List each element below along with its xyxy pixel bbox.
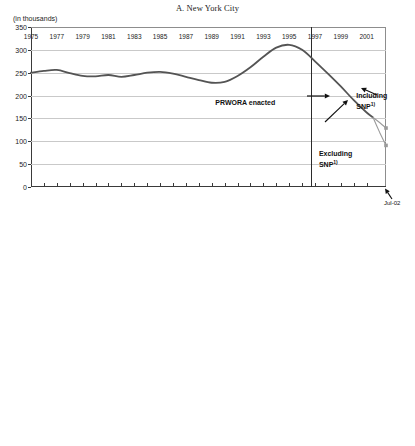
excluding-snp-arrow-icon (31, 27, 386, 187)
y-tick-label: 150 (15, 115, 27, 122)
jul-02-axis-label: Jul-02 (384, 200, 400, 206)
y-tick-label: 0 (23, 184, 27, 191)
jul-02-arrow-icon (31, 187, 386, 207)
page-footnote (0, 438, 415, 446)
chart-panel-united-states: B. The United States (in thousands) 0100… (0, 222, 415, 446)
y-tick-label: 50 (19, 161, 27, 168)
y-tick-label: 250 (15, 69, 27, 76)
panel-a-units-label: (in thousands) (13, 15, 57, 22)
y-tick-label: 300 (15, 46, 27, 53)
y-tick-label: 100 (15, 138, 27, 145)
y-tick-label: 200 (15, 92, 27, 99)
y-tick-label: 350 (15, 24, 27, 31)
panel-a-plot-area: 050100150200250300350 197519771979198119… (31, 27, 386, 187)
panel-a-title: A. New York City (0, 3, 415, 13)
chart-panel-new-york-city: A. New York City (in thousands) 05010015… (0, 0, 415, 222)
